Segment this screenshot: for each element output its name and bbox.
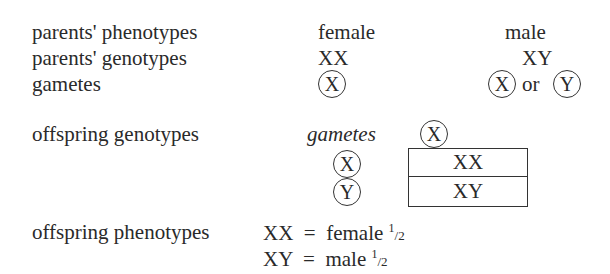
or-text: or xyxy=(522,74,540,95)
genotype-xy: XY xyxy=(263,247,293,271)
gametes-label: gametes xyxy=(32,74,101,95)
parents-phenotypes-label: parents' phenotypes xyxy=(32,22,197,43)
punnett-square: XX XY xyxy=(408,148,528,207)
offspring-phenotypes-label: offspring phenotypes xyxy=(32,222,210,243)
equals-sign: = xyxy=(303,247,315,271)
punnett-cell-xy: XY xyxy=(409,177,527,205)
phenotype-row-female: XX = female 1/2 xyxy=(263,222,405,244)
equals-sign: = xyxy=(304,221,316,245)
offspring-genotypes-label: offspring genotypes xyxy=(32,124,199,145)
fraction-denominator: 2 xyxy=(398,228,405,243)
phenotype-female: female xyxy=(326,221,383,245)
female-genotype: XX xyxy=(318,48,348,69)
parents-genotypes-label: parents' genotypes xyxy=(32,48,187,69)
male-gamete-y: Y xyxy=(553,70,581,98)
gametes-italic-label: gametes xyxy=(307,124,376,145)
row-gamete-x: X xyxy=(333,150,361,178)
column-gamete-x: X xyxy=(420,120,448,148)
fraction-denominator: 2 xyxy=(381,254,388,269)
male-gamete-x: X xyxy=(488,70,516,98)
male-genotype: XY xyxy=(522,48,552,69)
female-phenotype: female xyxy=(318,22,375,43)
phenotype-male: male xyxy=(325,247,366,271)
row-gamete-y: Y xyxy=(333,178,361,206)
genotype-xx: XX xyxy=(263,221,293,245)
female-gamete-x: X xyxy=(318,70,346,98)
punnett-cell-xx: XX xyxy=(409,149,527,177)
male-phenotype: male xyxy=(505,22,546,43)
phenotype-row-male: XY = male 1/2 xyxy=(263,248,388,270)
